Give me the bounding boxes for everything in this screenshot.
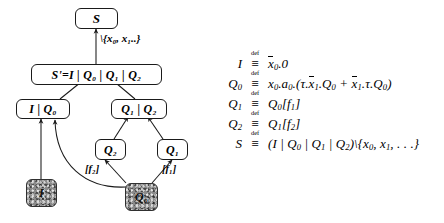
node-i-initial[interactable]: I	[26, 179, 57, 207]
node-s-prime[interactable]: S'=I | Q₀ | Q₁ | Q₂	[31, 64, 162, 85]
process-graph-diagram: S S'=I | Q₀ | Q₁ | Q₂ I | Q₀ Q₁ | Q₂ Q₂ …	[0, 0, 210, 223]
defining-equations: I def≡ x0.0 Q0 def≡ x0.a0.(τ.x1.Q0 + x1.…	[212, 54, 444, 154]
edge-label-relabel-f1: [f₁]	[162, 164, 176, 175]
equation-def-symbol-s: def≡	[242, 136, 268, 152]
node-s[interactable]: S	[75, 8, 118, 29]
equation-rhs-q2: Q1[f2]	[268, 116, 300, 132]
equation-rhs-i: x0.0	[268, 56, 288, 72]
node-s-label: S	[93, 12, 100, 25]
equation-lhs-s: S	[212, 136, 242, 152]
node-i-q0-label: I | Q₀	[29, 103, 56, 115]
node-i-q0[interactable]: I | Q₀	[16, 99, 70, 119]
equation-lhs-q2: Q2	[212, 116, 242, 132]
edge-q1-to-q1q2	[148, 117, 163, 139]
node-s-prime-label: S'=I | Q₀ | Q₁ | Q₂	[52, 69, 142, 81]
node-q0-initial-label: Q₀	[135, 191, 148, 203]
equation-lhs-q1: Q1	[212, 96, 242, 112]
equation-lhs-q0: Q0	[212, 76, 242, 92]
node-q0-initial[interactable]: Q₀	[125, 183, 158, 211]
edge-label-relabel-f2: [f₂]	[85, 164, 99, 175]
node-q2-label: Q₂	[104, 144, 117, 156]
figure-root: S S'=I | Q₀ | Q₁ | Q₂ I | Q₀ Q₁ | Q₂ Q₂ …	[0, 0, 444, 223]
equation-row-s: S def≡ (I | Q0 | Q1 | Q2)\{x0, x1, . . .…	[212, 134, 444, 154]
edge-q0-to-q2	[105, 160, 126, 183]
edge-q2-to-q1q2	[114, 117, 128, 139]
equation-rhs-s: (I | Q0 | Q1 | Q2)\{x0, x1, . . .}	[268, 136, 419, 152]
node-q2[interactable]: Q₂	[95, 139, 126, 160]
equation-lhs-i: I	[212, 56, 242, 72]
equation-rhs-q1: Q0[f1]	[268, 96, 300, 112]
node-q1-label: Q₁	[166, 144, 179, 156]
node-i-initial-label: I	[39, 187, 44, 199]
def-word: def	[242, 49, 268, 56]
def-word: def	[242, 129, 268, 136]
node-q1-q2-label: Q₁ | Q₂	[121, 103, 157, 115]
node-q1-q2[interactable]: Q₁ | Q₂	[111, 99, 167, 119]
def-word: def	[242, 109, 268, 116]
edge-label-restriction: \{x₀, x₁..}	[100, 33, 140, 44]
equation-rhs-q0: x0.a0.(τ.x1.Q0 + x1.τ.Q0)	[268, 76, 392, 92]
def-word: def	[242, 89, 268, 96]
def-word: def	[242, 69, 268, 76]
node-q1[interactable]: Q₁	[157, 139, 188, 160]
